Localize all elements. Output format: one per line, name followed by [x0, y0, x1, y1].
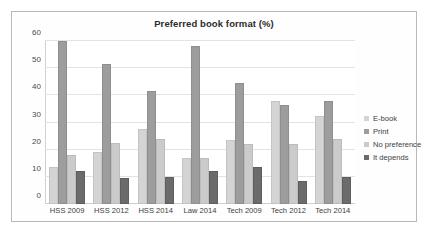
x-axis-label: Tech 2012 — [266, 206, 310, 215]
legend-label: It depends — [373, 153, 408, 162]
bar[interactable] — [315, 116, 324, 204]
bar-group — [45, 41, 89, 204]
y-axis-tick-label: 50 — [32, 55, 41, 64]
legend-item[interactable]: Print — [364, 125, 429, 138]
bar[interactable] — [235, 83, 244, 204]
bar[interactable] — [200, 158, 209, 204]
bar[interactable] — [226, 140, 235, 204]
legend-label: No preference — [373, 140, 421, 149]
bar[interactable] — [111, 143, 120, 204]
bar-group — [134, 41, 178, 204]
x-axis-label: HSS 2009 — [45, 206, 89, 215]
bar[interactable] — [298, 181, 307, 204]
x-axis-label: Law 2014 — [178, 206, 222, 215]
x-axis-label: Tech 2014 — [311, 206, 355, 215]
bar[interactable] — [147, 91, 156, 204]
legend-label: Print — [373, 127, 389, 136]
bar[interactable] — [76, 171, 85, 204]
bar[interactable] — [324, 101, 333, 204]
bar-group — [266, 41, 310, 204]
bar-group — [178, 41, 222, 204]
bar[interactable] — [156, 139, 165, 204]
bar-group — [89, 41, 133, 204]
y-axis-tick-label: 30 — [32, 109, 41, 118]
x-axis-label: HSS 2014 — [134, 206, 178, 215]
bar[interactable] — [120, 178, 129, 204]
x-axis-label: Tech 2009 — [222, 206, 266, 215]
y-axis-tick-label: 20 — [32, 136, 41, 145]
bar[interactable] — [191, 46, 200, 204]
plot-area: 0102030405060 — [45, 41, 355, 204]
chart-legend: E-bookPrintNo preferenceIt depends — [364, 112, 429, 164]
chart-frame: Preferred book format (%) 0102030405060 … — [11, 11, 417, 222]
bar-group — [222, 41, 266, 204]
bar[interactable] — [58, 41, 67, 204]
bar[interactable] — [138, 129, 147, 204]
bar[interactable] — [182, 158, 191, 204]
legend-swatch-icon — [364, 116, 369, 121]
bar[interactable] — [289, 144, 298, 204]
bar[interactable] — [244, 144, 253, 204]
legend-swatch-icon — [364, 142, 369, 147]
bar[interactable] — [280, 105, 289, 204]
bar[interactable] — [333, 139, 342, 204]
bar[interactable] — [342, 177, 351, 204]
bar[interactable] — [67, 155, 76, 204]
legend-item[interactable]: It depends — [364, 151, 429, 164]
bar[interactable] — [102, 64, 111, 204]
x-axis-label: HSS 2012 — [89, 206, 133, 215]
legend-item[interactable]: E-book — [364, 112, 429, 125]
legend-label: E-book — [373, 114, 397, 123]
bar[interactable] — [165, 177, 174, 204]
bar[interactable] — [93, 152, 102, 204]
bar[interactable] — [271, 101, 280, 204]
y-axis-tick-label: 10 — [32, 163, 41, 172]
legend-swatch-icon — [364, 155, 369, 160]
bar[interactable] — [209, 171, 218, 204]
bar-group — [311, 41, 355, 204]
y-axis-tick-label: 0 — [37, 191, 41, 200]
y-axis-tick-label: 40 — [32, 82, 41, 91]
bar-groups — [45, 41, 355, 204]
bar[interactable] — [49, 167, 58, 204]
chart-title: Preferred book format (%) — [12, 18, 416, 29]
bar[interactable] — [253, 167, 262, 204]
legend-swatch-icon — [364, 129, 369, 134]
legend-item[interactable]: No preference — [364, 138, 429, 151]
y-axis-tick-label: 60 — [32, 28, 41, 37]
x-axis-labels: HSS 2009HSS 2012HSS 2014Law 2014Tech 200… — [45, 206, 355, 215]
